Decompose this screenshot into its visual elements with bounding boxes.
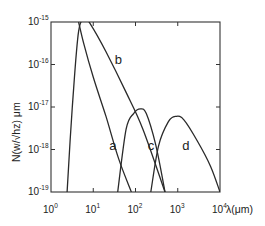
chart: 100101102103104 10-1510-1610-1710-1810-1… <box>0 0 265 226</box>
y-tick-labels: 10-1510-1610-1710-1810-19 <box>28 14 49 197</box>
y-tick-label: 10-16 <box>28 57 49 70</box>
curve-label-b: b <box>115 52 122 67</box>
y-tick-label: 10-19 <box>28 184 49 197</box>
y-tick-label: 10-18 <box>28 142 49 155</box>
curve-b <box>67 19 165 192</box>
x-tick-labels: 100101102103104 <box>43 202 227 215</box>
y-axis-title: N(w/√hz) μm <box>10 102 22 162</box>
x-tick-label: 101 <box>85 202 100 215</box>
curves <box>67 19 220 192</box>
x-tick-label: 103 <box>170 202 185 215</box>
curve-label-c: c <box>148 138 155 153</box>
curve-label-d: d <box>182 138 189 153</box>
curve-labels: abcd <box>109 52 189 153</box>
y-tick-label: 10-15 <box>28 14 49 27</box>
curve-a <box>79 22 132 192</box>
x-tick-label: 104 <box>212 202 227 215</box>
x-tick-label: 100 <box>43 202 58 215</box>
x-axis-title: λ(μm) <box>226 203 253 215</box>
x-tick-label: 102 <box>128 202 143 215</box>
curve-label-a: a <box>109 138 117 153</box>
y-tick-label: 10-17 <box>28 99 49 112</box>
